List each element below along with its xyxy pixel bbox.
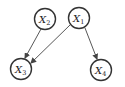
node-x4: X4	[91, 60, 112, 81]
node-x1: X1	[69, 8, 90, 29]
edge-x1-x4	[85, 28, 97, 59]
edge-x1-x3	[31, 25, 70, 63]
bayesian-network-diagram: X2 X1 X3 X4	[0, 0, 125, 87]
node-x3: X3	[11, 59, 32, 80]
edge-x2-x3	[25, 29, 41, 58]
node-x2: X2	[35, 9, 56, 30]
